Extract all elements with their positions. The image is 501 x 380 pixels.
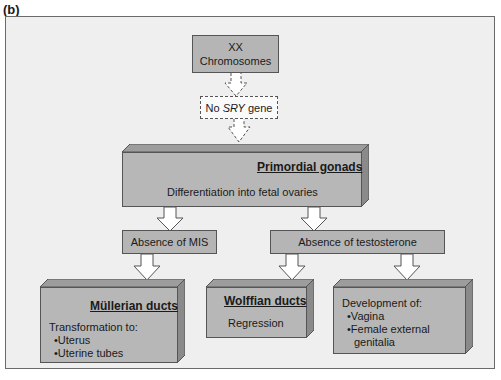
figure-label: (b)	[3, 2, 20, 17]
absence-of-mis-box: Absence of MIS	[122, 230, 217, 254]
primordial-gonads-box: Primordial gonads Differentiation into f…	[122, 144, 369, 207]
mullerian-content: Transformation to: Uterus Uterine tubes	[49, 321, 138, 360]
list-item-continuation: genitalia	[342, 336, 430, 349]
primordial-gonads-title: Primordial gonads	[257, 160, 362, 174]
regression-text: Regression	[228, 317, 284, 330]
mullerian-ducts-box: Müllerian ducts Transformation to: Uteru…	[40, 279, 185, 363]
transformation-text: Transformation to:	[49, 321, 138, 334]
wolffian-ducts-title: Wolffian ducts	[224, 294, 306, 308]
absence-of-testosterone-label: Absence of testosterone	[298, 235, 417, 249]
development-box: Development of: Vagina Female external g…	[333, 279, 473, 354]
list-item: Vagina	[347, 310, 430, 323]
dashed-arrow-icon	[224, 73, 248, 97]
arrow-down-icon	[393, 254, 421, 281]
absence-of-mis-label: Absence of MIS	[131, 235, 209, 249]
wolffian-ducts-box: Wolffian ducts Regression	[206, 279, 314, 338]
list-item: Uterine tubes	[54, 347, 138, 360]
absence-of-testosterone-box: Absence of testosterone	[270, 230, 445, 254]
differentiation-text: Differentiation into fetal ovaries	[167, 186, 318, 199]
arrow-down-icon	[300, 207, 328, 232]
arrow-down-icon	[156, 207, 184, 232]
list-item: Uterus	[54, 334, 138, 347]
chromosomes-label: Chromosomes	[200, 54, 272, 68]
mullerian-ducts-title: Müllerian ducts	[90, 299, 178, 313]
development-text: Development of:	[342, 297, 430, 310]
dashed-arrow-icon	[227, 119, 251, 143]
xx-label: XX	[228, 40, 243, 54]
xx-chromosomes-box: XX Chromosomes	[192, 35, 279, 73]
sry-text: No SRY gene	[206, 101, 273, 115]
arrow-down-icon	[278, 254, 306, 281]
arrow-down-icon	[133, 254, 161, 281]
development-content: Development of: Vagina Female external g…	[342, 297, 430, 349]
no-sry-gene-box: No SRY gene	[200, 96, 278, 119]
list-item: Female external	[347, 323, 430, 336]
